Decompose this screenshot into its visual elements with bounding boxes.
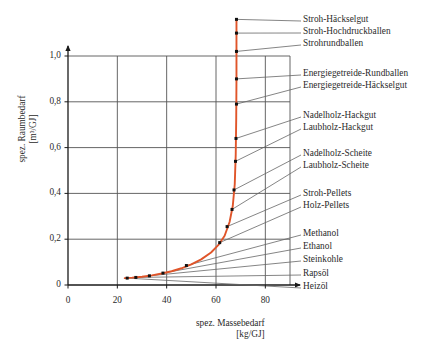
x-tick-label: 60 (201, 295, 231, 305)
gridlines (68, 56, 290, 285)
annotation-label: Energiegetreide-Häckselgut (303, 80, 407, 90)
annotation-label-column: Stroh-HäckselgutStroh-HochdruckballenStr… (303, 0, 440, 347)
x-tick-label: 80 (250, 295, 280, 305)
y-axis-label: spez. Raumbedarf (17, 64, 28, 194)
y-tick-label: 0,2 (31, 233, 61, 243)
y-axis-title: spez. Raumbedarf [m³/GJ] (17, 64, 39, 194)
x-tick-label: 0 (53, 295, 83, 305)
annotation-label: Methanol (303, 228, 339, 238)
x-tick-label: 20 (102, 295, 132, 305)
annotation-label: Strohrundballen (303, 38, 363, 48)
annotation-label: Laubholz-Hackgut (303, 122, 373, 132)
y-tick-label: 1,0 (31, 50, 61, 60)
x-axis-label: spez. Massebedarf (196, 318, 265, 329)
annotation-label: Energiegetreide-Rundballen (303, 68, 408, 78)
annotation-label: Nadelholz-Scheite (303, 148, 372, 158)
annotation-label: Stroh-Hochdruckballen (303, 26, 391, 36)
annotation-label: Laubholz-Scheite (303, 160, 369, 170)
x-axis-title: spez. Massebedarf [kg/GJ] (196, 318, 265, 340)
leader-lines (127, 19, 301, 288)
y-axis-unit: [m³/GJ] (28, 64, 39, 194)
annotation-label: Holz-Pellets (303, 200, 349, 210)
annotation-label: Nadelholz-Hackgut (303, 110, 376, 120)
annotation-label: Rapsöl (303, 268, 329, 278)
y-tick-label: 0 (31, 279, 61, 289)
annotation-label: Steinkohle (303, 254, 343, 264)
annotation-label: Heizöl (303, 281, 328, 291)
annotation-label: Stroh-Pellets (303, 188, 351, 198)
x-axis-unit: [kg/GJ] (196, 329, 265, 340)
annotation-label: Ethanol (303, 241, 332, 251)
x-tick-label: 40 (152, 295, 182, 305)
annotation-label: Stroh-Häckselgut (303, 14, 368, 24)
